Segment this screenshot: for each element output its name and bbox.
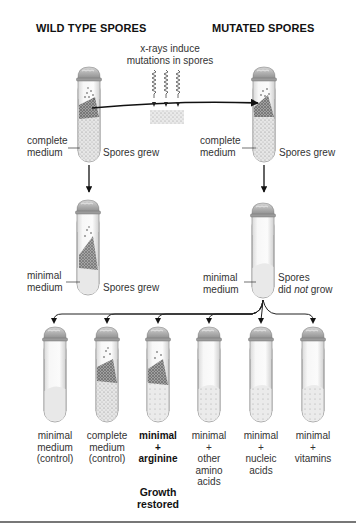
line: arginine <box>133 453 183 465</box>
growth-restored-note: Growth restored <box>130 486 186 510</box>
line: acids <box>184 476 234 488</box>
middle-left-medium-label: minimal medium <box>27 270 63 293</box>
medium-line2: medium <box>27 147 68 159</box>
tube-minimal-control <box>43 327 68 422</box>
medium-line2: medium <box>203 284 239 296</box>
middle-left-result: Spores grew <box>103 282 159 294</box>
tube-minimal-nucleic-acids <box>249 327 274 422</box>
result-pre: did <box>278 284 294 295</box>
label-minimal-nucleic-acids: minimal + nucleic acids <box>236 430 286 476</box>
middle-right-result: Spores did not grow <box>278 272 332 295</box>
note-line1: Growth <box>130 486 186 498</box>
line: + <box>184 442 234 454</box>
line: medium <box>80 442 134 454</box>
mutated-header: MUTATED SPORES <box>212 22 314 34</box>
line: + <box>236 442 286 454</box>
line: acids <box>236 465 286 477</box>
line: + <box>288 442 338 454</box>
middle-right-medium-label: minimal medium <box>203 272 239 295</box>
line: nucleic <box>236 453 286 465</box>
line: minimal <box>184 430 234 442</box>
line: minimal <box>236 430 286 442</box>
medium-line2: medium <box>200 147 241 159</box>
medium-line1: complete <box>200 135 241 147</box>
line: minimal <box>30 430 80 442</box>
note-line2: restored <box>130 498 186 510</box>
line: amino <box>184 465 234 477</box>
transfer-arrow <box>92 102 258 108</box>
medium-line1: minimal <box>27 270 63 282</box>
label-minimal-control: minimal medium (control) <box>30 430 80 465</box>
tube-minimal-arginine <box>146 327 171 422</box>
xray-note-line2: mutations in spores <box>120 55 220 67</box>
wild-type-header: WILD TYPE SPORES <box>36 22 146 34</box>
label-minimal-arginine: minimal + arginine <box>133 430 183 465</box>
medium-line1: minimal <box>203 272 239 284</box>
label-complete-control: complete medium (control) <box>80 430 134 465</box>
result-line1: Spores <box>278 272 332 284</box>
xray-waves-icon <box>152 70 180 98</box>
medium-line1: complete <box>27 135 68 147</box>
xray-note: x-rays induce mutations in spores <box>120 43 220 66</box>
tube-minimal-other-amino-acids <box>197 327 222 422</box>
line: vitamins <box>288 453 338 465</box>
result-emphasis: not <box>294 284 308 295</box>
xray-note-line1: x-rays induce <box>120 43 220 55</box>
line: minimal <box>133 430 183 442</box>
line: (control) <box>30 453 80 465</box>
tube-wild-type-minimal <box>76 200 101 295</box>
line: medium <box>30 442 80 454</box>
top-left-result: Spores grew <box>103 147 159 159</box>
top-right-medium-label: complete medium <box>200 135 241 158</box>
branch-arrows <box>54 300 313 320</box>
tube-minimal-vitamins <box>301 327 326 422</box>
line: minimal <box>288 430 338 442</box>
line: + <box>133 442 183 454</box>
result-post: grow <box>308 284 332 295</box>
top-left-medium-label: complete medium <box>27 135 68 158</box>
tube-mutated-minimal <box>251 203 276 298</box>
line: (control) <box>80 453 134 465</box>
line: other <box>184 453 234 465</box>
medium-line2: medium <box>27 282 63 294</box>
top-right-result: Spores grew <box>279 147 335 159</box>
label-minimal-vitamins: minimal + vitamins <box>288 430 338 465</box>
label-minimal-other-amino-acids: minimal + other amino acids <box>184 430 234 488</box>
bottom-divider <box>0 521 356 523</box>
spore-cloud <box>150 110 184 124</box>
result-line2: did not grow <box>278 284 332 296</box>
tube-wild-type-complete <box>77 67 102 162</box>
tube-complete-control <box>95 327 120 422</box>
line: complete <box>80 430 134 442</box>
